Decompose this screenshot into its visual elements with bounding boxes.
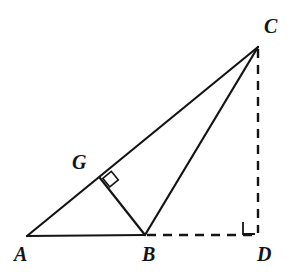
vertex-label-A: A <box>14 244 27 264</box>
right-angle-at-D <box>243 222 255 234</box>
geometry-figure: A B C D G <box>0 0 305 272</box>
vertex-label-D: D <box>257 244 271 264</box>
geometry-canvas <box>0 0 305 272</box>
vertex-label-G: G <box>72 152 86 172</box>
segment-BC <box>145 47 258 235</box>
segment-BG <box>100 178 145 235</box>
segment-AC <box>27 47 258 236</box>
vertex-label-C: C <box>264 16 277 36</box>
segment-AB <box>27 235 145 236</box>
vertex-label-B: B <box>142 244 155 264</box>
